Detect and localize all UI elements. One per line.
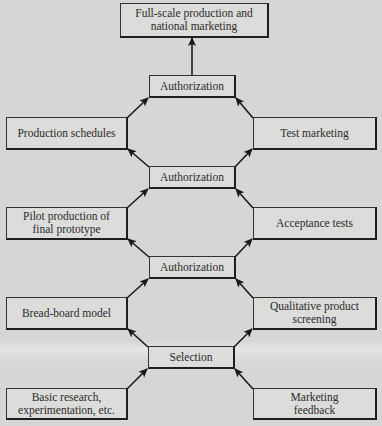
- node-authorization-3: Authorization: [149, 256, 236, 279]
- arrow-auth3-to-acceptance: [235, 239, 252, 257]
- arrow-acceptance-to-auth2: [236, 189, 253, 208]
- node-production-schedules: Production schedules: [6, 117, 128, 150]
- arrow-basic-to-selection: [127, 369, 147, 389]
- diagram-canvas: Full-scale production and national marke…: [0, 0, 382, 426]
- node-marketing-feedback: Marketing feedback: [253, 388, 377, 420]
- node-full-scale-production: Full-scale production and national marke…: [120, 3, 269, 38]
- node-pilot-production: Pilot production of final prototype: [6, 207, 128, 240]
- node-bread-board-model: Bread-board model: [6, 297, 128, 330]
- arrow-testmarketing-to-auth1: [236, 98, 253, 118]
- arrow-schedules-to-auth1: [127, 98, 148, 118]
- arrow-pilot-to-auth2: [127, 189, 148, 208]
- arrow-auth3-to-pilot: [128, 239, 149, 257]
- arrow-qualitative-to-auth3: [236, 279, 253, 298]
- arrow-selection-to-breadboard: [128, 329, 148, 347]
- arrow-auth2-to-testmarketing: [235, 149, 252, 167]
- arrow-feedback-to-selection: [235, 369, 253, 389]
- arrow-selection-to-qualitative: [234, 329, 252, 347]
- node-authorization-2: Authorization: [149, 166, 236, 189]
- arrow-auth2-to-schedules: [128, 149, 149, 167]
- node-basic-research: Basic research, experimentation, etc.: [6, 388, 128, 420]
- node-acceptance-tests: Acceptance tests: [253, 207, 377, 240]
- node-selection: Selection: [148, 346, 235, 369]
- node-qualitative-screening: Qualitative product screening: [253, 297, 377, 330]
- node-authorization-1: Authorization: [149, 75, 236, 98]
- node-test-marketing: Test marketing: [253, 117, 377, 150]
- arrow-breadboard-to-auth3: [127, 279, 148, 298]
